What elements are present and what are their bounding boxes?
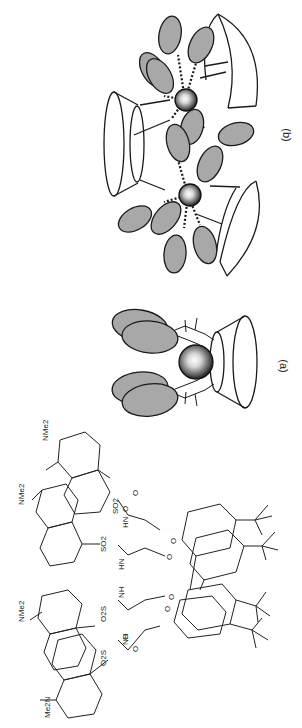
label-o-carbonyl-4: O: [131, 646, 140, 652]
label-nme2-2: NMe2: [17, 483, 26, 505]
naphthalene-lower: [30, 590, 102, 718]
label-o-ether-1: O: [169, 538, 178, 544]
label-so2-3: O2S: [99, 606, 108, 622]
panel-b: [104, 14, 259, 276]
chemical-labels: NMe2 NMe2 NMe2 Me2N SO2 SO2 O2S O2S HN H…: [17, 419, 178, 718]
metal-ion-2: [179, 184, 201, 206]
panel-b-label: (b): [281, 128, 293, 141]
label-o-ether-3: O: [167, 594, 176, 600]
label-hn-2: HN: [117, 558, 126, 570]
label-o-carbonyl-2: O: [121, 506, 130, 512]
label-o-ether-4: O: [163, 606, 172, 612]
label-o-carbonyl-1: O: [131, 490, 140, 496]
pendant-ellipsoids-a: [110, 305, 180, 419]
label-nme2-1: NMe2: [41, 419, 50, 441]
label-nme2-3: NMe2: [17, 600, 26, 622]
panel-a: [110, 305, 257, 419]
figure: (b) (a): [0, 0, 302, 728]
label-nh-1: NH: [117, 586, 126, 598]
label-so2-2: SO2: [99, 535, 108, 552]
label-me2n: Me2N: [43, 696, 52, 718]
label-so2-1: SO2: [111, 497, 120, 514]
tert-butyl-groups: [230, 505, 278, 648]
cone-host-a: [210, 316, 257, 408]
label-so2-4: O2S: [99, 650, 108, 666]
metal-ion-1: [175, 89, 197, 111]
label-hn-1: HN: [121, 516, 130, 528]
panel-a-label: (a): [278, 359, 290, 372]
calixarene-core: [174, 504, 244, 638]
chemical-structure: [30, 432, 278, 718]
label-o-ether-2: O: [165, 554, 174, 560]
cone-host-left: [104, 92, 170, 196]
metal-ion-a: [179, 345, 213, 379]
label-o-carbonyl-3: O: [121, 634, 130, 640]
